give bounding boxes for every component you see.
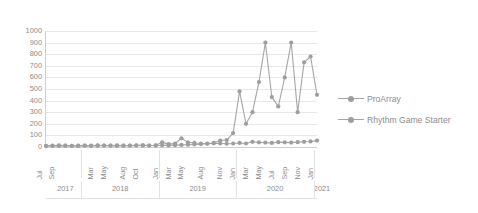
legend-item-proarray[interactable]: ProArray: [338, 88, 478, 109]
legend-item-label: Rhythm Game Starter: [364, 115, 451, 125]
data-point-marker: [302, 140, 306, 144]
x-axis-year-label: 2018: [81, 184, 158, 193]
data-point-marker: [308, 139, 312, 143]
x-axis-tick-label: May: [100, 166, 108, 180]
data-point-marker: [283, 75, 287, 79]
x-axis-tick-label: Mar: [165, 168, 173, 180]
data-point-marker: [289, 140, 293, 144]
data-point-marker: [276, 104, 280, 108]
data-point-marker: [315, 93, 319, 97]
data-point-marker: [70, 144, 74, 148]
data-point-marker: [212, 141, 216, 145]
y-axis-tick-label: 100: [2, 131, 42, 139]
chart-container: 10009008007006005004003002001000 JulSepM…: [0, 0, 478, 213]
y-axis-tick-label: 800: [2, 50, 42, 58]
x-axis-tick-label: Oct: [133, 169, 141, 180]
data-point-marker: [50, 144, 54, 148]
axis-group-separator: [81, 150, 82, 178]
data-point-marker: [83, 144, 87, 148]
y-axis-tick-label: 500: [2, 85, 42, 93]
data-point-marker: [283, 140, 287, 144]
data-point-marker: [270, 95, 274, 99]
data-point-marker: [44, 144, 48, 148]
data-point-marker: [173, 143, 177, 147]
data-point-marker: [205, 141, 209, 145]
data-point-marker: [263, 41, 267, 45]
y-axis-tick-label: 1000: [2, 27, 42, 35]
axis-group-separator: [81, 181, 82, 198]
legend-item-rhythm-game-starter[interactable]: Rhythm Game Starter: [338, 109, 478, 130]
x-axis-tick-label: Aug: [120, 167, 128, 180]
data-point-marker: [244, 122, 248, 126]
x-axis-year-baseline: [46, 198, 317, 199]
data-point-marker: [115, 144, 119, 148]
series-line-2: [46, 43, 317, 146]
data-point-marker: [108, 144, 112, 148]
data-point-marker: [192, 142, 196, 146]
y-axis-tick-labels: 10009008007006005004003002001000: [0, 0, 42, 213]
data-point-marker: [237, 141, 241, 145]
chart-legend: ProArray Rhythm Game Starter: [338, 88, 478, 130]
x-axis-year-label: 2020: [236, 184, 313, 193]
x-axis-tick-label: Mar: [242, 168, 250, 180]
y-axis-tick-label: 400: [2, 97, 42, 105]
data-point-marker: [147, 143, 151, 147]
data-point-marker: [179, 136, 183, 140]
x-axis-tick-label: May: [178, 166, 186, 180]
axis-group-separator: [236, 181, 237, 198]
x-axis-tick-label: Jul: [268, 171, 276, 180]
data-point-marker: [128, 143, 132, 147]
x-axis-year-label: 2017: [46, 184, 85, 193]
data-point-marker: [289, 41, 293, 45]
y-axis-tick-label: 200: [2, 120, 42, 128]
data-point-marker: [270, 141, 274, 145]
axis-group-separator: [314, 181, 315, 198]
data-point-marker: [257, 140, 261, 144]
data-point-marker: [225, 138, 229, 142]
legend-marker-icon: [338, 115, 364, 125]
data-point-marker: [102, 143, 106, 147]
data-point-marker: [141, 143, 145, 147]
y-axis-tick-label: 300: [2, 108, 42, 116]
data-point-marker: [296, 110, 300, 114]
data-point-marker: [237, 89, 241, 93]
data-point-marker: [199, 142, 203, 146]
data-point-marker: [231, 131, 235, 135]
x-axis-month-labels: JulSepMarMayAugOctJanMarMayAugNovJanMarM…: [46, 150, 317, 180]
x-axis-tick-label: Nov: [217, 167, 225, 180]
data-point-marker: [250, 140, 254, 144]
data-point-marker: [296, 140, 300, 144]
x-axis-tick-label: Jul: [36, 171, 44, 180]
data-point-marker: [308, 54, 312, 58]
data-point-marker: [244, 141, 248, 145]
x-axis-year-labels: 20172018201920202021: [46, 181, 317, 199]
data-point-marker: [121, 144, 125, 148]
data-point-marker: [160, 143, 164, 147]
data-point-marker: [89, 144, 93, 148]
x-axis-tick-label: Aug: [197, 167, 205, 180]
x-axis-tick-label: May: [255, 166, 263, 180]
data-point-marker: [315, 139, 319, 143]
x-axis-year-label: 2019: [159, 184, 236, 193]
x-axis-tick-label: Mar: [88, 168, 96, 180]
axis-group-separator: [159, 150, 160, 178]
axis-group-separator: [236, 150, 237, 178]
legend-marker-icon: [338, 94, 364, 104]
data-point-marker: [134, 144, 138, 148]
legend-item-label: ProArray: [364, 94, 401, 104]
data-point-marker: [57, 144, 61, 148]
x-axis-tick-label: Nov: [294, 167, 302, 180]
data-point-marker: [231, 141, 235, 145]
y-axis-tick-label: 900: [2, 39, 42, 47]
axis-group-separator: [159, 181, 160, 198]
data-point-marker: [257, 80, 261, 84]
data-point-marker: [276, 140, 280, 144]
data-point-marker: [250, 110, 254, 114]
data-point-marker: [76, 144, 80, 148]
axis-group-separator: [314, 150, 315, 178]
y-axis-tick-label: 0: [2, 143, 42, 151]
data-point-marker: [63, 144, 67, 148]
series-layer: [46, 31, 317, 148]
data-point-marker: [225, 142, 229, 146]
data-point-marker: [186, 143, 190, 147]
